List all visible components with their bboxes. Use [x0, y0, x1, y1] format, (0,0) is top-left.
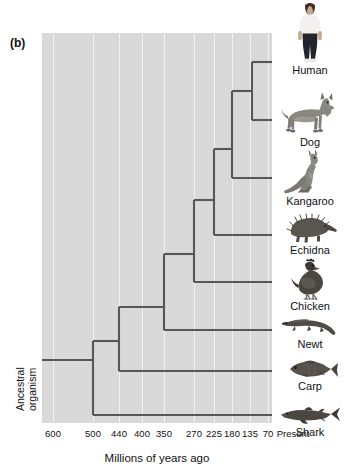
- taxon-label: Carp: [274, 380, 346, 392]
- gridline: [194, 33, 195, 423]
- shark-photo: [278, 402, 342, 426]
- newt-photo: [279, 316, 341, 338]
- taxon-label: Newt: [274, 338, 346, 350]
- taxon-echidna: Echidna: [274, 212, 346, 256]
- taxon-chicken: Chicken: [274, 258, 346, 312]
- axis-tick-400: 400: [134, 428, 150, 439]
- taxon-newt: Newt: [274, 316, 346, 350]
- human-photo: [290, 2, 330, 64]
- dog-photo: [279, 92, 341, 136]
- taxon-label: Dog: [274, 136, 346, 148]
- kangaroo-photo: [280, 150, 340, 195]
- echidna-photo: [281, 212, 339, 244]
- chicken-photo: [287, 258, 333, 300]
- gridline: [142, 33, 143, 423]
- axis-tick-present: Present: [277, 428, 310, 439]
- gridline: [250, 33, 251, 423]
- taxon-dog: Dog: [274, 92, 346, 148]
- taxon-human: Human: [274, 2, 346, 76]
- axis-tick-350: 350: [156, 428, 172, 439]
- taxon-kangaroo: Kangaroo: [274, 150, 346, 207]
- taxon-label: Chicken: [274, 300, 346, 312]
- axis-tick-225: 225: [206, 428, 222, 439]
- taxon-label: Kangaroo: [274, 195, 346, 207]
- panel-label: (b): [10, 36, 25, 50]
- axis-tick-180: 180: [224, 428, 240, 439]
- axis-tick-500: 500: [85, 428, 101, 439]
- axis-tick-270: 270: [186, 428, 202, 439]
- axis-tick-135: 135: [242, 428, 258, 439]
- axis-title: Millions of years ago: [42, 452, 272, 464]
- carp-photo: [282, 358, 338, 380]
- gridline: [268, 33, 269, 423]
- axis-tick-440: 440: [111, 428, 127, 439]
- gridline: [53, 33, 54, 423]
- plot-area: [42, 33, 272, 423]
- taxon-label: Echidna: [274, 244, 346, 256]
- taxon-label: Human: [274, 64, 346, 76]
- ancestral-organism-label: Ancestral organism: [14, 318, 40, 414]
- axis-tick-70: 70: [263, 428, 274, 439]
- gridline: [119, 33, 120, 423]
- gridline: [164, 33, 165, 423]
- taxon-carp: Carp: [274, 358, 346, 392]
- phylogenetic-tree-figure: (b) Ancestral organism: [0, 0, 346, 474]
- axis-tick-600: 600: [45, 428, 61, 439]
- gridline: [214, 33, 215, 423]
- ancestral-organism-label-line2: organism: [26, 368, 38, 411]
- gridline: [232, 33, 233, 423]
- ancestral-organism-label-line1: Ancestral: [14, 367, 26, 411]
- gridline: [93, 33, 94, 423]
